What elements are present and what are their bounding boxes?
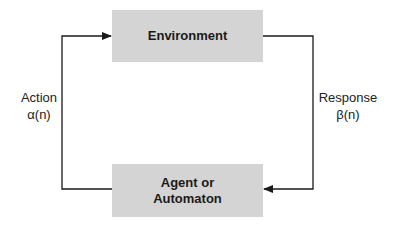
- action-edge-label: Action α(n): [14, 89, 64, 123]
- action-label-symbol: α(n): [14, 106, 64, 123]
- response-arrow: [263, 36, 313, 189]
- action-label-text: Action: [14, 89, 64, 106]
- agent-node: Agent or Automaton: [112, 164, 263, 217]
- environment-node: Environment: [112, 10, 263, 62]
- agent-label-line1: Agent or: [153, 175, 222, 191]
- response-label-text: Response: [314, 89, 382, 106]
- response-label-symbol: β(n): [314, 106, 382, 123]
- agent-label-line2: Automaton: [153, 191, 222, 207]
- response-edge-label: Response β(n): [314, 89, 382, 123]
- action-arrow: [62, 36, 112, 189]
- environment-label: Environment: [148, 28, 227, 44]
